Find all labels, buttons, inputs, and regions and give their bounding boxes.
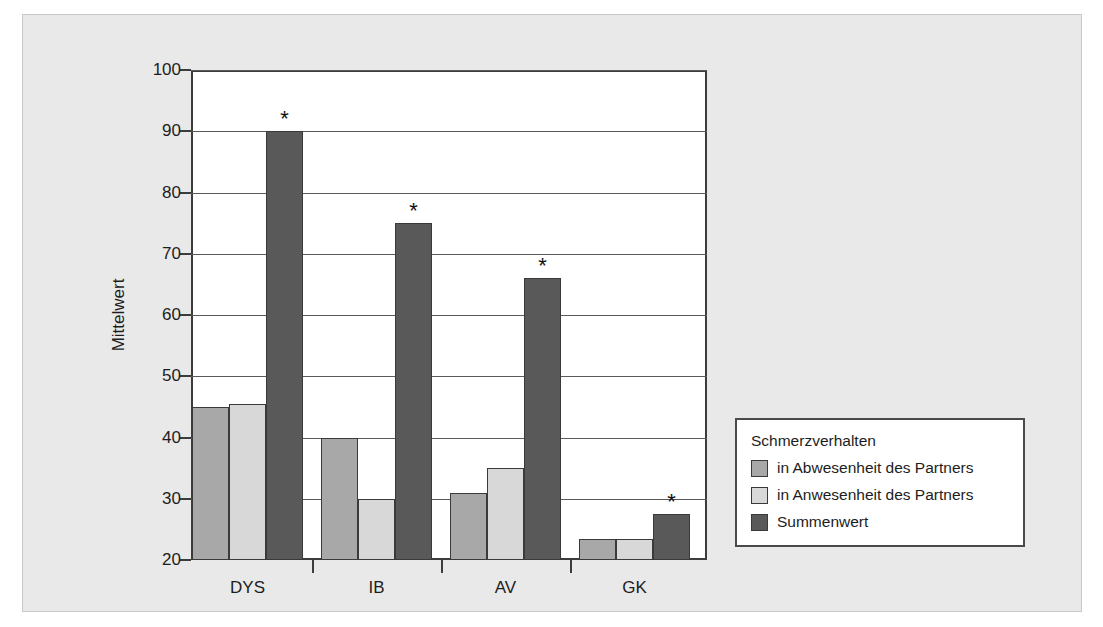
x-axis-separator-tick	[312, 560, 314, 573]
y-tick-mark	[180, 69, 191, 71]
x-category-label: DYS	[230, 578, 265, 598]
y-tick-label: 60	[121, 305, 181, 325]
y-tick-mark	[180, 130, 191, 132]
y-tick-label: 40	[121, 428, 181, 448]
legend-label: Summenwert	[777, 513, 868, 531]
x-category-label: IB	[368, 578, 384, 598]
y-tick-mark	[180, 253, 191, 255]
legend-swatch	[751, 514, 768, 531]
bar	[358, 499, 395, 560]
bar	[229, 404, 266, 560]
y-tick-label: 90	[121, 121, 181, 141]
y-tick-mark	[180, 375, 191, 377]
bar	[579, 539, 616, 560]
significance-asterisk: *	[280, 110, 289, 128]
bar	[192, 407, 229, 560]
legend-swatch	[751, 460, 768, 477]
legend-entry: in Anwesenheit des Partners	[751, 486, 1009, 504]
bar	[395, 223, 432, 560]
y-tick-mark	[180, 314, 191, 316]
x-axis-separator-tick	[441, 560, 443, 573]
legend-entry: in Abwesenheit des Partners	[751, 459, 1009, 477]
bar	[450, 493, 487, 560]
y-tick-label: 80	[121, 183, 181, 203]
y-tick-label: 30	[121, 489, 181, 509]
x-category-label: GK	[622, 578, 647, 598]
x-axis-separator-tick	[570, 560, 572, 573]
legend-entry: Summenwert	[751, 513, 1009, 531]
bar	[653, 514, 690, 560]
bar	[524, 278, 561, 560]
bar	[616, 539, 653, 560]
significance-asterisk: *	[538, 257, 547, 275]
y-tick-label: 50	[121, 366, 181, 386]
bar	[266, 131, 303, 560]
significance-asterisk: *	[667, 493, 676, 511]
plot-area: 2030405060708090100 **** DYSIBAVGK	[191, 70, 707, 560]
y-tick-mark	[180, 192, 191, 194]
chart-legend: Schmerzverhalten in Abwesenheit des Part…	[735, 418, 1025, 547]
figure-panel: Mittelwert 2030405060708090100 **** DYSI…	[22, 14, 1082, 612]
y-tick-mark	[180, 437, 191, 439]
y-tick-label: 20	[121, 550, 181, 570]
legend-title: Schmerzverhalten	[751, 432, 1009, 450]
legend-swatch	[751, 487, 768, 504]
y-tick-mark	[180, 498, 191, 500]
y-tick-mark	[180, 559, 191, 561]
legend-entries: in Abwesenheit des Partnersin Anwesenhei…	[751, 459, 1009, 531]
legend-label: in Abwesenheit des Partners	[777, 459, 973, 477]
x-category-label: AV	[495, 578, 516, 598]
bar	[321, 438, 358, 561]
legend-label: in Anwesenheit des Partners	[777, 486, 973, 504]
y-tick-label: 70	[121, 244, 181, 264]
gridline	[191, 70, 707, 71]
significance-asterisk: *	[409, 202, 418, 220]
bar	[487, 468, 524, 560]
y-tick-label: 100	[121, 60, 181, 80]
